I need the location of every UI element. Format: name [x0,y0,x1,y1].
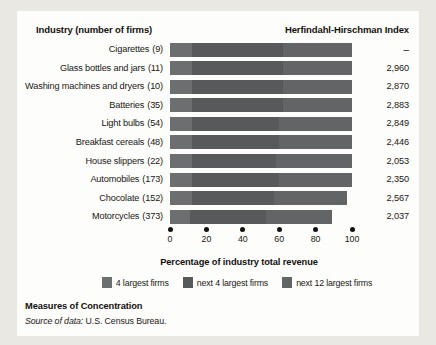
firm-count: (152) [142,193,163,203]
tick-label: 100 [338,234,366,244]
industry-name: Breakfast cereals [76,137,144,147]
bar-segment-1 [170,135,192,149]
tick-label: 0 [156,234,184,244]
firm-count: (48) [147,137,163,147]
firm-count: (11) [148,63,163,73]
column-headers: Industry (number of firms) Herfindahl-Hi… [17,24,419,38]
bar-segment-2 [192,117,279,131]
bar-segment-3 [283,80,352,94]
row-label: Glass bottles and jars(11) [17,63,163,73]
industry-name: Automobiles [90,174,139,184]
tick-dot-icon [313,227,318,232]
source-value: U.S. Census Bureau. [86,316,167,326]
legend-item: next 4 largest firms [183,277,268,288]
bar-segment-1 [170,154,192,168]
tick-dot-icon [204,227,209,232]
hhi-value: 2,870 [367,81,409,91]
x-axis-label: Percentage of industry total revenue [17,257,419,267]
bar-segment-2 [192,98,283,112]
hhi-value: 2,446 [367,137,409,147]
bar-row: House slippers(22)2,053 [17,153,419,172]
bar-segment-3 [274,191,347,205]
stacked-bar [170,173,352,187]
tick-dot-icon [277,227,282,232]
legend-label: next 4 largest firms [197,278,268,288]
tick-dot-icon [168,227,173,232]
firm-count: (35) [147,100,163,110]
industry-name: Batteries [109,100,144,110]
firm-count: (22) [147,156,163,166]
legend-label: 4 largest firms [116,278,169,288]
industry-name: Motorcycles [92,211,139,221]
bar-segment-1 [170,61,192,75]
legend-item: 4 largest firms [102,277,169,288]
legend-swatch [183,277,193,288]
source-label: Source of data: [25,316,83,326]
firm-count: (10) [147,81,163,91]
tick-label: 80 [302,234,330,244]
industry-name: Glass bottles and jars [60,63,145,73]
bar-segment-3 [283,61,352,75]
stacked-bar [170,210,332,224]
hhi-value: 2,053 [367,156,409,166]
figure-source: Source of data: U.S. Census Bureau. [25,316,415,326]
bar-row: Glass bottles and jars(11)2,960 [17,60,419,79]
bar-segment-2 [192,154,276,168]
bar-segment-3 [279,117,352,131]
legend-swatch [282,277,292,288]
bar-segment-3 [279,173,352,187]
bar-row: Breakfast cereals(48)2,446 [17,134,419,153]
tick-label: 60 [265,234,293,244]
bar-segment-2 [192,173,279,187]
x-axis: 020406080100 [170,227,352,257]
row-label: Cigarettes(9) [17,44,163,54]
stacked-bar [170,117,352,131]
hhi-value: 2,960 [367,63,409,73]
legend-label: next 12 largest firms [296,278,372,288]
firm-count: (173) [142,174,163,184]
bar-segment-1 [170,98,192,112]
bar-row: Light bulbs(54)2,849 [17,115,419,134]
bar-row: Cigarettes(9)– [17,41,419,60]
row-label: Motorcycles(373) [17,211,163,221]
hhi-value: 2,350 [367,174,409,184]
header-industry: Industry (number of firms) [36,24,152,35]
tick-label: 20 [192,234,220,244]
row-label: House slippers(22) [17,156,163,166]
row-label: Chocolate(152) [17,193,163,203]
bar-segment-1 [170,210,190,224]
bar-row: Chocolate(152)2,567 [17,190,419,209]
row-label: Batteries(35) [17,100,163,110]
figure-caption-title: Measures of Concentration [25,301,415,311]
hhi-value: 2,849 [367,118,409,128]
industry-name: Washing machines and dryers [25,81,144,91]
bar-segment-3 [283,43,352,57]
bar-segment-1 [170,117,192,131]
bar-segment-2 [192,43,283,57]
bar-segment-2 [192,135,279,149]
bar-row: Washing machines and dryers(10)2,870 [17,78,419,97]
bar-segment-2 [192,80,283,94]
bar-segment-3 [283,98,352,112]
hhi-value: – [367,44,409,55]
chart-legend: 4 largest firmsnext 4 largest firmsnext … [17,277,419,288]
industry-name: Chocolate [99,193,139,203]
industry-name: Cigarettes [109,44,149,54]
bar-row: Batteries(35)2,883 [17,97,419,116]
legend-swatch [102,277,112,288]
bar-segment-3 [266,210,332,224]
bar-segment-3 [276,154,352,168]
row-label: Automobiles(173) [17,174,163,184]
bar-segment-2 [192,61,283,75]
bar-segment-3 [279,135,352,149]
hhi-value: 2,883 [367,100,409,110]
tick-dot-icon [350,227,355,232]
header-hhi: Herfindahl-Hirschman Index [285,24,409,35]
bar-segment-2 [190,210,266,224]
firm-count: (9) [152,44,163,54]
stacked-bar [170,98,352,112]
bar-segment-1 [170,173,192,187]
bar-segment-1 [170,43,192,57]
stacked-bar [170,80,352,94]
tick-label: 40 [229,234,257,244]
